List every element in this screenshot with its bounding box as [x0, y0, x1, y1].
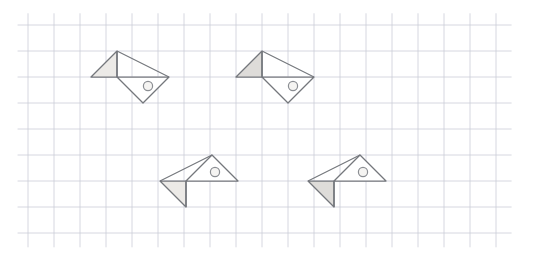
zigzag-shape-top-left-marker-circle	[143, 81, 152, 90]
canvas-background	[0, 0, 539, 255]
zigzag-shape-bottom-right-marker-circle	[358, 167, 367, 176]
figure-svg	[0, 0, 539, 255]
figure-canvas	[0, 0, 539, 255]
zigzag-shape-top-right-marker-circle	[288, 81, 297, 90]
zigzag-shape-bottom-left-marker-circle	[210, 167, 219, 176]
